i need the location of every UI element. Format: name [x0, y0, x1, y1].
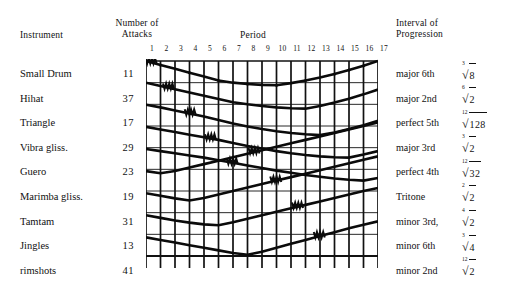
period-tick-14: 14 [334, 44, 348, 53]
instrument-label: Vibra gliss. [20, 136, 106, 161]
trace-node [246, 82, 249, 85]
plot-svg [146, 59, 378, 274]
radical-expression: 12√128 [462, 111, 487, 137]
radical-sign-icon: √ [462, 217, 469, 227]
instrument-label: Jingles [20, 234, 106, 259]
trace-node [261, 83, 264, 86]
attacks-value: 41 [104, 259, 134, 284]
trace-node [217, 79, 220, 82]
zigzag-marker [292, 203, 303, 209]
period-tick-1: 1 [145, 44, 159, 53]
radicand: 8 [469, 63, 476, 89]
period-tick-11: 11 [290, 44, 304, 53]
interval-label-column: major 6th3√8major 2nd6√2perfect 5th12√12… [396, 62, 508, 283]
radical-sign-icon: √ [462, 119, 469, 129]
instrument-label: Hihat [20, 87, 106, 112]
period-tick-3: 3 [174, 44, 188, 53]
period-grid-plot [146, 59, 378, 274]
radical-sign-icon: √ [462, 242, 469, 252]
interval-row: major 6th3√8 [396, 62, 508, 87]
trace-node [275, 84, 278, 87]
attacks-value: 11 [104, 62, 134, 87]
interval-row: minor 3rd,4√2 [396, 210, 508, 235]
radical-index: 4 [462, 208, 465, 214]
instrument-label: Guero [20, 160, 106, 185]
instrument-label: Marimba gliss. [20, 185, 106, 210]
zigzag-marker [314, 232, 325, 238]
period-tick-4: 4 [189, 44, 203, 53]
radical-sign-icon: √ [462, 192, 469, 202]
interval-row: major 2nd6√2 [396, 87, 508, 112]
radical-index: 6 [462, 85, 465, 91]
attacks-value-column: 113717292319311341 [104, 62, 134, 283]
period-tick-10: 10 [276, 44, 290, 53]
interval-row: major 3rd3√2 [396, 136, 508, 161]
interval-name: perfect 5th [396, 111, 458, 136]
radical-sign-icon: √ [462, 70, 469, 80]
trace-node [348, 69, 351, 72]
interval-name: major 2nd [396, 87, 458, 112]
instrument-label: Small Drum [20, 62, 106, 87]
radicand: 2 [469, 185, 476, 211]
radicand: 2 [469, 259, 476, 285]
zigzag-marker [270, 177, 281, 183]
period-axis-labels: 1234567891011121314151617 [152, 44, 380, 56]
trace-node [188, 71, 191, 74]
interval-name: perfect 4th [396, 160, 458, 185]
interval-row: perfect 5th12√128 [396, 111, 508, 136]
attacks-value: 29 [104, 136, 134, 161]
attacks-value: 31 [104, 210, 134, 235]
instrument-label: rimshots [20, 259, 106, 284]
trace-node [159, 63, 162, 66]
figure-sheet: Instrument Number of Attacks Period Inte… [0, 0, 508, 294]
radicand: 128 [469, 112, 487, 138]
radical-expression: 6√2 [462, 86, 476, 112]
interval-row: perfect 4th12√32 [396, 160, 508, 185]
interval-name: minor 3rd, [396, 210, 458, 235]
radical-sign-icon: √ [462, 94, 469, 104]
radical-sign-icon: √ [462, 143, 469, 153]
radical-index: 12 [462, 110, 468, 116]
period-tick-6: 6 [218, 44, 232, 53]
attacks-value: 37 [104, 87, 134, 112]
radicand: 2 [469, 136, 476, 162]
trace-node [304, 79, 307, 82]
column-header-attacks-line1: Number of [106, 18, 168, 29]
column-header-attacks: Number of Attacks [106, 18, 168, 40]
attacks-value: 23 [104, 160, 134, 185]
interval-name: minor 6th [396, 234, 458, 259]
radical-sign-icon: √ [462, 266, 469, 276]
radicand: 2 [469, 87, 476, 113]
radical-expression: 12√2 [462, 258, 476, 284]
radical-index: 12 [462, 257, 468, 263]
radical-index: 2 [462, 183, 465, 189]
radical-index: 3 [462, 61, 465, 67]
radical-index: 3 [462, 233, 465, 239]
period-tick-15: 15 [348, 44, 362, 53]
interval-name: Tritone [396, 185, 458, 210]
attacks-value: 13 [104, 234, 134, 259]
interval-name: major 6th [396, 62, 458, 87]
attacks-value: 17 [104, 111, 134, 136]
trace-node [333, 73, 336, 76]
zigzag-markers [146, 59, 325, 238]
attacks-value: 19 [104, 185, 134, 210]
instrument-label-column: Small DrumHihatTriangleVibra gliss.Guero… [20, 62, 106, 283]
column-header-period: Period [240, 30, 266, 41]
interval-name: major 3rd [396, 136, 458, 161]
period-tick-5: 5 [203, 44, 217, 53]
period-tick-12: 12 [305, 44, 319, 53]
column-header-instrument: Instrument [20, 30, 63, 41]
instrument-label: Tamtam [20, 210, 106, 235]
period-tick-8: 8 [247, 44, 261, 53]
zigzag-marker [249, 148, 260, 154]
period-tick-13: 13 [319, 44, 333, 53]
radical-index: 3 [462, 134, 465, 140]
trace-node [362, 64, 365, 67]
column-header-attacks-line2: Attacks [106, 29, 168, 40]
radicand: 2 [469, 210, 476, 236]
column-header-interval: Interval of Progression [396, 18, 443, 40]
period-tick-7: 7 [232, 44, 246, 53]
interval-row: Tritone2√2 [396, 185, 508, 210]
period-tick-16: 16 [363, 44, 377, 53]
